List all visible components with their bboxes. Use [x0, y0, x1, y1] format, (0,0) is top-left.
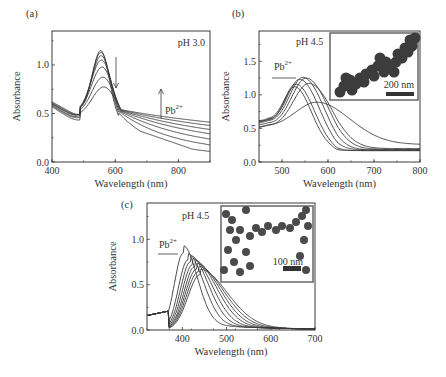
y-tick-label: 1.0	[244, 89, 257, 100]
panel-a: (a) 4006008000.00.51.0Wavelength (nm)Abs…	[11, 8, 210, 190]
x-tick-label: 700	[367, 165, 382, 176]
y-tick-label: 0.5	[244, 123, 257, 134]
y-tick-label: 0.5	[37, 108, 50, 119]
x-axis-label: Wavelength (nm)	[303, 178, 376, 190]
panel-a-axes: 4006008000.00.51.0Wavelength (nm)Absorba…	[11, 41, 210, 190]
x-tick-label: 600	[108, 165, 123, 176]
spectrum-line	[52, 52, 210, 145]
x-tick-label: 700	[308, 333, 323, 344]
y-tick-label: 0.0	[132, 325, 145, 336]
x-tick-label: 800	[171, 165, 186, 176]
panel-b-ph-label: pH 4.5	[296, 36, 323, 47]
y-tick-label: 1.0	[37, 59, 50, 70]
x-tick-label: 500	[219, 333, 234, 344]
x-tick-label: 600	[263, 333, 278, 344]
panel-a-ph-label: pH 3.0	[178, 37, 205, 48]
spectrum-line	[52, 56, 210, 139]
spectrum-line	[52, 77, 210, 125]
y-axis-label: Absorbance	[107, 241, 118, 291]
y-tick-label: 0.0	[37, 157, 50, 168]
panel-c: (c) 4005006007000.00.51.0Wavelength (nm)…	[107, 199, 323, 358]
x-tick-label: 800	[413, 165, 428, 176]
spectrum-line	[52, 51, 210, 152]
x-axis-label: Wavelength (nm)	[195, 346, 268, 358]
inset-b-scale-label: 200 nm	[384, 79, 415, 90]
x-tick-label: 600	[321, 165, 336, 176]
absorbance-figure: (a) 4006008000.00.51.0Wavelength (nm)Abs…	[0, 0, 446, 377]
panel-b: (b) 5006007008000.00.51.01.5Wavelength (…	[220, 8, 428, 190]
panel-a-label: (a)	[26, 8, 38, 20]
panel-a-curves	[52, 51, 210, 152]
panel-c-label: (c)	[121, 199, 133, 211]
panel-b-pb-label: Pb2+	[274, 59, 292, 72]
y-tick-label: 1.5	[244, 56, 257, 67]
y-tick-label: 0.0	[244, 157, 257, 168]
panel-b-label: (b)	[232, 8, 245, 20]
panel-c-ph-label: pH 4.5	[182, 210, 209, 221]
y-axis-label: Absorbance	[220, 71, 231, 121]
inset-c-scale-label: 100 nm	[273, 256, 304, 267]
panel-a-frame	[52, 31, 210, 162]
scale-bar-b	[386, 92, 414, 96]
x-tick-label: 500	[275, 165, 290, 176]
panel-a-pb-label: Pb2+	[165, 103, 183, 116]
x-tick-label: 400	[175, 333, 190, 344]
panel-c-pb-label: Pb2+	[159, 237, 177, 250]
panel-c-inset: 100 nm	[220, 206, 313, 282]
y-axis-label: Absorbance	[11, 71, 22, 121]
x-axis-label: Wavelength (nm)	[95, 178, 168, 190]
y-tick-label: 0.5	[132, 279, 145, 290]
panel-b-inset: 200 nm	[330, 33, 421, 101]
y-tick-label: 1.0	[132, 234, 145, 245]
